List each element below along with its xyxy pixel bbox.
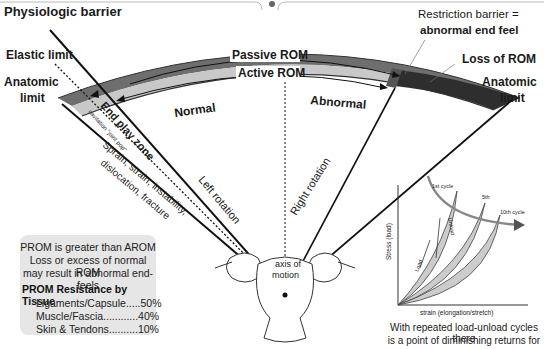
info-row-muscle: Muscle/Fascia............40%	[36, 310, 159, 322]
abnormal-zone-label: Abnormal	[310, 93, 367, 112]
right-rotation-label: Right rotation	[288, 155, 333, 217]
anatomic-limit-right-label-2: limit	[500, 91, 525, 105]
info-row-ligaments: Ligaments/Capsule.....50%	[36, 297, 162, 309]
axis-label-2: motion	[272, 270, 299, 280]
anatomic-limit-right-label-1: Anatomic	[482, 75, 537, 89]
frame-knob-icon	[269, 1, 275, 7]
restriction-barrier-label-1: Restriction barrier =	[418, 8, 519, 20]
hysteresis-chart: Stress (load) strain (elongation/stretch…	[385, 176, 528, 317]
curve-label-1st: 1st cycle	[432, 183, 453, 189]
chart-xlabel: strain (elongation/stretch)	[420, 309, 493, 317]
physiologic-barrier-label: Physiologic barrier	[4, 4, 122, 19]
curve-label-10th: 10th cycle	[500, 209, 525, 215]
anatomic-limit-left-label-1: Anatomic	[4, 75, 59, 89]
chart-caption-2: is a point of diminishing returns for	[384, 335, 544, 346]
active-rom-label: Active ROM	[238, 66, 305, 80]
curve-label-5th: 5th	[482, 194, 490, 200]
left-rotation-label: Left rotation	[196, 174, 243, 226]
load-label: Load	[413, 259, 423, 273]
info-line-1: PROM is greater than AROM	[20, 241, 156, 253]
restriction-barrier-label-2: abnormal end feel	[420, 24, 518, 36]
elastic-limit-label: Elastic limit	[6, 48, 73, 62]
anatomic-limit-left-label-2: limit	[20, 91, 45, 105]
axis-marker	[283, 293, 288, 298]
axis-label-1: axis of	[275, 259, 302, 269]
info-row-skin: Skin & Tendons..........10%	[36, 323, 159, 335]
normal-zone-label: Normal	[173, 100, 216, 120]
prom-info-panel: PROM is greater than AROM Loss or excess…	[20, 235, 156, 335]
chart-ylabel: Stress (load)	[385, 223, 393, 260]
trend-arrow-head-icon	[514, 219, 525, 231]
loss-of-rom-label: Loss of ROM	[462, 52, 536, 66]
passive-rom-label: Passive ROM	[232, 48, 308, 62]
